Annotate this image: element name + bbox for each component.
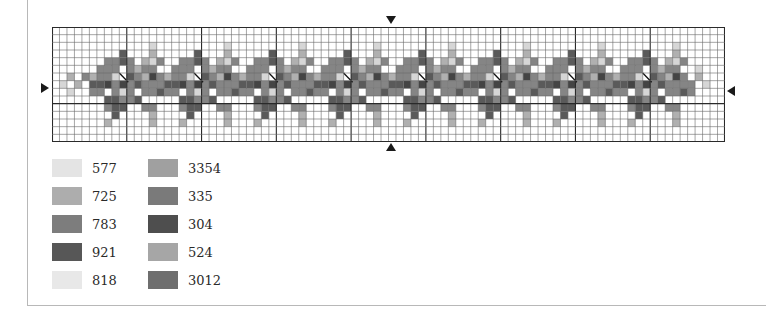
- stitch-cell: [486, 88, 493, 96]
- stitch-cell: [433, 65, 440, 73]
- color-swatch: [52, 243, 82, 261]
- stitch-cell: [134, 65, 141, 73]
- stitch-cell: [680, 81, 687, 89]
- stitch-cell: [112, 104, 119, 112]
- stitch-cell: [119, 96, 126, 104]
- stitch-cell: [209, 81, 216, 89]
- stitch-cell: [568, 81, 575, 89]
- stitch-cell: [493, 50, 500, 58]
- stitch-cell: [568, 88, 575, 96]
- stitch-cell: [673, 58, 680, 66]
- stitch-cell: [374, 81, 381, 89]
- stitch-cell: [486, 58, 493, 66]
- stitch-cell: [187, 104, 194, 112]
- stitch-cell: [179, 104, 186, 112]
- stitch-cell: [284, 96, 291, 104]
- stitch-cell: [478, 104, 485, 112]
- stitch-cell: [366, 88, 373, 96]
- stitch-cell: [486, 104, 493, 112]
- stitch-cell: [172, 73, 179, 81]
- color-swatch: [148, 271, 178, 289]
- stitch-cell: [359, 65, 366, 73]
- stitch-cell: [501, 73, 508, 81]
- stitch-cell: [239, 88, 246, 96]
- stitch-cell: [658, 96, 665, 104]
- stitch-cell: [620, 88, 627, 96]
- stitch-cell: [501, 96, 508, 104]
- stitch-cell: [598, 81, 605, 89]
- stitch-cell: [590, 65, 597, 73]
- stitch-cell: [403, 81, 410, 89]
- stitch-cell: [441, 65, 448, 73]
- stitch-cell: [321, 88, 328, 96]
- stitch-cell: [366, 81, 373, 89]
- stitch-cell: [523, 65, 530, 73]
- stitch-cell: [351, 88, 358, 96]
- stitch-cell: [179, 119, 186, 127]
- stitch-cell: [553, 73, 560, 81]
- stitch-cell: [246, 88, 253, 96]
- stitch-cell: [628, 58, 635, 66]
- stitch-cell: [344, 96, 351, 104]
- stitch-cell: [448, 104, 455, 112]
- stitch-cell: [673, 65, 680, 73]
- stitch-cell: [119, 88, 126, 96]
- stitch-cell: [217, 81, 224, 89]
- stitch-cell: [127, 58, 134, 66]
- stitch-cell: [374, 58, 381, 66]
- stitch-cell: [187, 58, 194, 66]
- stitch-cell: [418, 50, 425, 58]
- stitch-cell: [411, 65, 418, 73]
- stitch-cell: [523, 50, 530, 58]
- stitch-cell: [224, 88, 231, 96]
- stitch-cell: [261, 58, 268, 66]
- legend-item: 3354: [148, 157, 288, 177]
- stitch-cell: [568, 50, 575, 58]
- stitch-cell: [374, 65, 381, 73]
- stitch-cell: [643, 96, 650, 104]
- stitch-cell: [179, 58, 186, 66]
- stitch-cell: [172, 65, 179, 73]
- stitch-cell: [187, 65, 194, 73]
- color-swatch: [148, 215, 178, 233]
- color-swatch: [148, 187, 178, 205]
- stitch-cell: [575, 58, 582, 66]
- stitch-cell: [276, 58, 283, 66]
- stitch-cell: [276, 73, 283, 81]
- stitch-cell: [463, 88, 470, 96]
- stitch-cell: [366, 73, 373, 81]
- stitch-cell: [441, 58, 448, 66]
- stitch-cell: [650, 65, 657, 73]
- stitch-cell: [299, 119, 306, 127]
- stitch-cell: [448, 73, 455, 81]
- stitch-cell: [351, 65, 358, 73]
- stitch-cell: [142, 104, 149, 112]
- stitch-cell: [553, 104, 560, 112]
- stitch-cell: [134, 96, 141, 104]
- stitch-cell: [478, 58, 485, 66]
- stitch-cell: [613, 88, 620, 96]
- stitch-cell: [403, 73, 410, 81]
- stitch-cell: [478, 73, 485, 81]
- stitch-cell: [157, 58, 164, 66]
- stitch-cell: [426, 73, 433, 81]
- stitch-cell: [546, 73, 553, 81]
- thread-code: 725: [92, 187, 117, 207]
- stitch-cell: [224, 73, 231, 81]
- stitch-cell: [665, 73, 672, 81]
- stitch-cell: [231, 88, 238, 96]
- stitch-cell: [605, 88, 612, 96]
- stitch-cell: [665, 104, 672, 112]
- stitch-cell: [598, 104, 605, 112]
- legend-item: 3012: [148, 269, 288, 289]
- stitch-cell: [448, 119, 455, 127]
- stitch-cell: [359, 81, 366, 89]
- stitch-cell: [650, 58, 657, 66]
- stitch-cell: [97, 81, 104, 89]
- stitch-cell: [344, 81, 351, 89]
- stitch-cell: [456, 88, 463, 96]
- stitch-cell: [187, 88, 194, 96]
- stitch-cell: [329, 119, 336, 127]
- stitch-cell: [590, 81, 597, 89]
- stitch-cell: [665, 81, 672, 89]
